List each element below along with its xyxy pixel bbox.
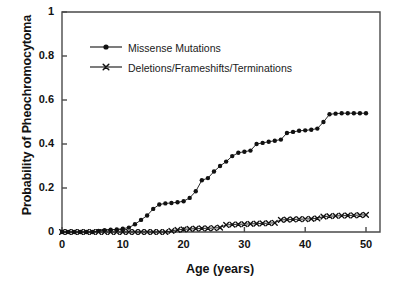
- data-point: [339, 111, 343, 115]
- data-point: [358, 111, 362, 115]
- data-point: [315, 126, 319, 130]
- data-point: [327, 112, 331, 116]
- legend-layer: [90, 44, 122, 69]
- data-point: [273, 139, 277, 143]
- data-point: [236, 151, 240, 155]
- data-point: [224, 159, 228, 163]
- data-point: [260, 141, 264, 145]
- data-point: [285, 131, 289, 135]
- data-point: [212, 169, 216, 173]
- data-point: [151, 207, 155, 211]
- data-point: [303, 128, 307, 132]
- data-point: [297, 129, 301, 133]
- data-point: [139, 218, 143, 222]
- data-point: [267, 140, 271, 144]
- data-point: [200, 178, 204, 182]
- data-point: [352, 111, 356, 115]
- data-point: [133, 222, 137, 226]
- legend-marker-circle: [103, 44, 108, 49]
- data-point: [194, 189, 198, 193]
- data-point: [181, 199, 185, 203]
- axes-frame: [62, 12, 380, 232]
- data-point: [242, 150, 246, 154]
- data-point: [321, 120, 325, 124]
- data-point: [248, 148, 252, 152]
- data-point: [157, 202, 161, 206]
- data-point: [291, 130, 295, 134]
- data-point: [218, 164, 222, 168]
- data-point: [163, 201, 167, 205]
- legend-label-deletions: Deletions/Frameshifts/Terminations: [128, 62, 292, 74]
- data-point: [206, 176, 210, 180]
- data-point: [279, 137, 283, 141]
- data-point: [145, 213, 149, 217]
- data-point: [346, 111, 350, 115]
- data-point: [364, 111, 368, 115]
- data-point: [309, 128, 313, 132]
- data-point: [175, 200, 179, 204]
- data-point: [187, 196, 191, 200]
- data-series-layer: [60, 111, 369, 234]
- chart-figure: Probability of Pheochromocytoma Age (yea…: [0, 0, 400, 291]
- data-point: [169, 201, 173, 205]
- data-point: [127, 225, 131, 229]
- data-point: [230, 154, 234, 158]
- legend-label-missense: Missense Mutations: [128, 42, 221, 54]
- series-deletions: [60, 212, 369, 234]
- data-point: [254, 142, 258, 146]
- data-point: [333, 111, 337, 115]
